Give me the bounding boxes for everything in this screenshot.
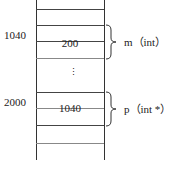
brace-icon: [105, 91, 119, 127]
annotation-m: m（int）: [124, 36, 166, 48]
cell-divider: [36, 92, 104, 93]
ellipsis-vertical: ⋮: [69, 70, 73, 74]
address-label-p: 2000: [4, 96, 26, 108]
cell-value-p: 1040: [36, 102, 104, 114]
brace-icon: [105, 24, 119, 60]
cell-divider: [36, 58, 104, 59]
cell-divider: [36, 9, 104, 10]
memory-column: [36, 0, 105, 160]
cell-divider: [36, 125, 104, 126]
cell-divider: [36, 25, 104, 26]
cell-value-m: 200: [36, 37, 104, 49]
address-label-m: 1040: [4, 29, 26, 41]
annotation-p: p（int *）: [124, 103, 171, 115]
cell-divider: [36, 143, 104, 144]
